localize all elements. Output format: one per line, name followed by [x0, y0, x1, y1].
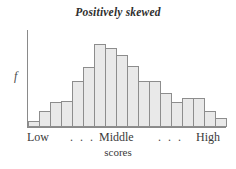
plot-area: f Low . . . Middle . . . High scores: [0, 0, 236, 169]
histogram-bar: [193, 98, 205, 127]
histogram-bar: [105, 48, 117, 127]
x-tick-high: High: [196, 131, 220, 144]
histogram-bar: [61, 101, 73, 127]
histogram-bar: [215, 118, 227, 127]
x-axis-caption: scores: [0, 146, 236, 158]
x-tick-middle: Middle: [99, 131, 134, 144]
histogram-bar: [94, 44, 106, 127]
histogram-bar: [182, 98, 194, 127]
histogram-bar: [116, 55, 128, 127]
histogram-bar: [138, 81, 150, 127]
histogram-bar: [204, 111, 216, 127]
histogram-bars: [28, 30, 226, 127]
histogram-bar: [72, 81, 84, 127]
histogram-bar: [28, 121, 40, 127]
histogram-bar: [127, 66, 139, 127]
x-tick-ellipsis-right: . . .: [158, 131, 183, 144]
histogram-bar: [160, 93, 172, 127]
histogram-bar: [83, 67, 95, 127]
y-axis-label: f: [14, 70, 17, 82]
histogram-bar: [171, 102, 183, 127]
x-tick-low: Low: [27, 131, 49, 144]
histogram-bar: [50, 102, 62, 127]
x-tick-ellipsis-left: . . .: [70, 131, 95, 144]
x-axis-line: [27, 127, 226, 128]
histogram-figure: Positively skewed f Low . . . Middle . .…: [0, 0, 236, 169]
histogram-bar: [39, 111, 51, 127]
histogram-bar: [149, 81, 161, 127]
